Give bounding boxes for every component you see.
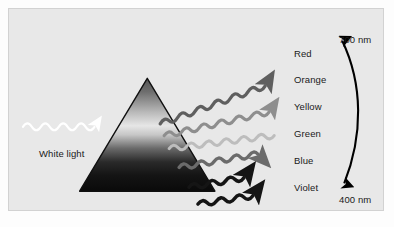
prism-triangle bbox=[80, 78, 215, 191]
label-yellow: Yellow bbox=[294, 102, 322, 112]
label-white-light: White light bbox=[39, 149, 84, 159]
prism bbox=[80, 78, 215, 191]
label-wavelength-min: 400 nm bbox=[339, 195, 371, 205]
label-green: Green bbox=[294, 129, 321, 139]
label-orange: Orange bbox=[294, 75, 326, 85]
label-violet: Violet bbox=[294, 183, 318, 193]
figure-frame: Red Orange Yellow Green Blue Violet Whit… bbox=[8, 8, 384, 211]
figure-stage: Red Orange Yellow Green Blue Violet Whit… bbox=[9, 9, 383, 210]
wave-violet bbox=[198, 195, 253, 205]
wavelength-range-arrow bbox=[342, 41, 358, 184]
diagram-canvas bbox=[9, 9, 383, 210]
label-blue: Blue bbox=[294, 156, 313, 166]
label-wavelength-max: 700 nm bbox=[339, 35, 371, 45]
figure-root: Red Orange Yellow Green Blue Violet Whit… bbox=[0, 0, 394, 227]
wavelength-arrow-line bbox=[342, 41, 358, 184]
white-light-beam bbox=[23, 123, 95, 130]
white-light-wave-icon bbox=[23, 123, 95, 130]
label-red: Red bbox=[294, 49, 312, 59]
